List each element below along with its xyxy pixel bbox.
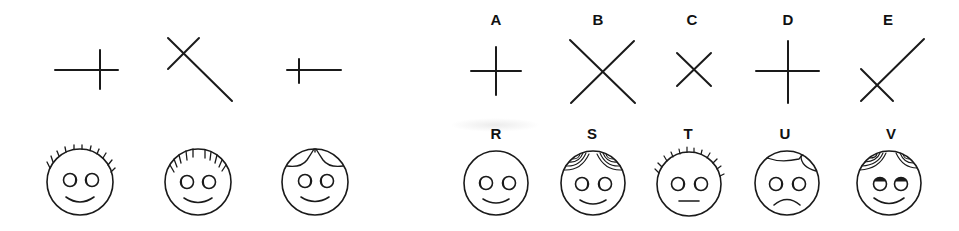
option-cross-c [677, 53, 711, 86]
option-face-t [655, 147, 724, 216]
figure: A B C D E R S T U V [0, 0, 959, 231]
sample-face-2 [165, 149, 231, 215]
sample-cross-1 [55, 50, 118, 89]
option-face-s [561, 151, 625, 215]
sample-cross-3 [287, 59, 341, 83]
option-face-u [755, 151, 819, 215]
option-face-r [464, 151, 528, 215]
option-face-v [857, 151, 921, 215]
option-cross-a [471, 47, 521, 95]
option-cross-b [570, 40, 635, 103]
option-cross-e [861, 39, 924, 101]
figure-drawing [0, 0, 959, 231]
sample-face-3 [282, 149, 348, 215]
option-cross-d [756, 41, 819, 103]
sample-cross-2 [168, 38, 232, 101]
sample-face-1 [47, 145, 115, 215]
